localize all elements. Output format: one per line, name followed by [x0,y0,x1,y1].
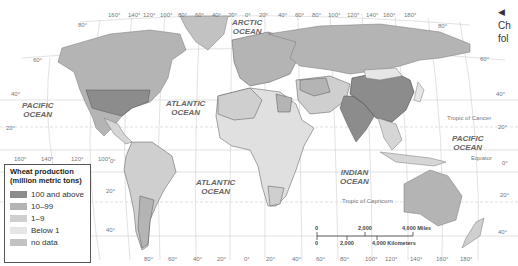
equator-label: Equator [471,155,492,161]
lon-label: 40° [212,12,221,18]
lon-label: 20° [217,256,226,262]
tropic-of-capricorn-label: Tropic of Capricorn [342,198,393,204]
legend-swatch [10,191,27,198]
atlantic-ocean-north-label: ATLANTICOCEAN [166,99,205,117]
lat-label: 40° [106,227,115,233]
lat-label: 0° [110,158,116,164]
south-africa [268,186,284,206]
lon-label: 100° [160,12,172,18]
lon-label: 40° [193,256,202,262]
legend-item-10-99: 10–99 [10,200,85,212]
lon-label: 180° [404,12,416,18]
lat-label: 40° [496,91,505,97]
scale-km-2000: 2,000 [340,240,354,246]
side-caption-line1: Ch [498,19,511,32]
lat-label: 20° [106,188,115,194]
legend-item-no-data: no data [10,236,85,248]
lon-label: 100° [98,156,110,162]
lon-label: 0° [245,12,251,18]
lon-label: 60° [168,256,177,262]
southeast-asia [378,118,402,150]
pacific-ocean-west-label: PACIFICOCEAN [22,101,53,119]
left-arrow-icon: ◀ [498,6,511,19]
argentina [138,196,154,248]
lon-label: 100° [328,12,340,18]
side-caption: ◀ Ch fol [498,6,511,45]
lat-label: 80° [438,23,447,29]
lat-label: 60° [480,56,489,62]
lon-label: 100° [365,256,377,262]
arctic-ocean-label: ARCTICOCEAN [232,18,262,36]
russia [268,24,470,74]
scale-miles-2000: 2,000 [358,225,372,231]
lat-label: 20° [498,124,507,130]
legend: Wheat production(million metric tons) 10… [4,164,91,263]
lon-label: 20° [266,256,275,262]
japan [414,82,424,102]
lon-label: 140° [410,256,422,262]
lon-label: 120° [347,12,359,18]
europe [232,32,298,86]
egypt [276,94,292,112]
north-america [58,30,186,136]
scale-km-4000: 4,000 Kilometers [372,240,416,246]
lon-label: 140° [128,12,140,18]
lon-label: 20° [259,12,268,18]
legend-title: Wheat production(million metric tons) [10,168,85,185]
lat-label: 60° [33,57,42,63]
lon-label: 160° [14,156,26,162]
lat-label: 20° [500,192,509,198]
atlantic-ocean-south-label: ATLANTICOCEAN [196,178,235,196]
lon-label: 80° [178,12,187,18]
legend-swatch [10,239,27,246]
lon-label: 20° [228,12,237,18]
lon-label: 160° [383,12,395,18]
lon-label: 120° [385,256,397,262]
lon-label: 140° [366,12,378,18]
lon-label: 120° [71,156,83,162]
lon-label: 40° [292,256,301,262]
lon-label: 60° [195,12,204,18]
legend-swatch [10,227,27,234]
lon-label: 0° [244,256,250,262]
legend-swatch [10,203,27,210]
scale-miles-4000: 4,000 Miles [402,225,431,231]
lon-label: 40° [278,12,287,18]
lon-label: 140° [41,156,53,162]
indonesia [380,152,446,166]
lon-label: 120° [143,12,155,18]
legend-swatch [10,215,27,222]
south-america [124,142,176,250]
lon-label: 60° [316,256,325,262]
side-caption-line2: fol [498,32,511,45]
legend-item-1-9: 1–9 [10,212,85,224]
scale-bar: 0 2,000 4,000 Miles 0 2,000 4,000 Kilome… [313,226,433,246]
australia [404,170,462,226]
pacific-ocean-east-label: PACIFICOCEAN [452,134,483,152]
legend-item-100-and-above: 100 and above [10,188,85,200]
lat-label: 20° [6,125,15,131]
lat-label: 0° [502,160,508,166]
indian-ocean-label: INDIANOCEAN [340,168,369,186]
lon-label: 180° [460,256,472,262]
lon-label: 160° [108,12,120,18]
lat-label: 40° [498,229,507,235]
new-zealand [462,218,484,248]
lon-label: 160° [436,256,448,262]
lon-label: 80° [340,256,349,262]
lat-label: 40° [11,91,20,97]
lon-label: 80° [312,12,321,18]
tropic-of-cancer-label: Tropic of Cancer [447,115,491,121]
lon-label: 80° [144,256,153,262]
legend-item-below-1: Below 1 [10,224,85,236]
scale-km-0: 0 [315,240,318,246]
lat-label: 80° [78,22,87,28]
lon-label: 60° [295,12,304,18]
greenland [180,16,228,50]
scale-miles-0: 0 [315,225,318,231]
